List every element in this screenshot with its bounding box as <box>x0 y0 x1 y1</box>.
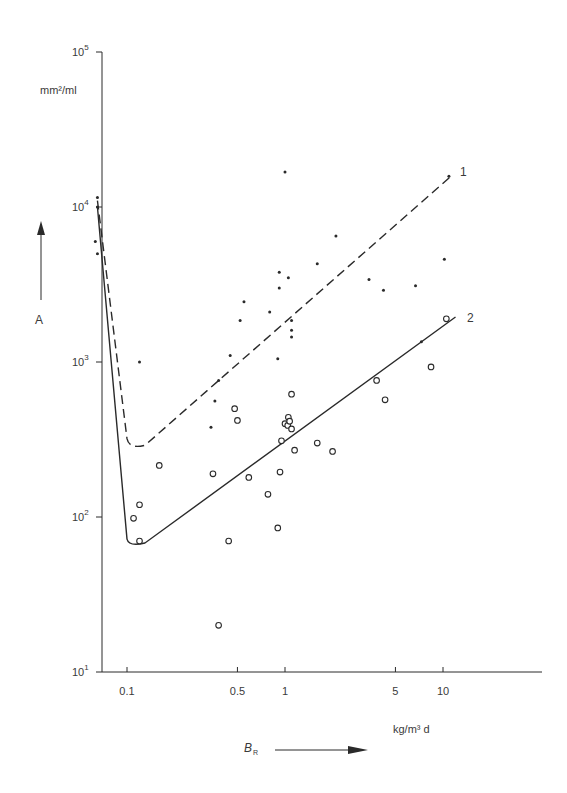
y-tick-label: 102 <box>72 508 89 523</box>
data-point-open <box>131 516 137 522</box>
data-point-open <box>382 397 388 403</box>
data-point-open <box>444 316 450 322</box>
data-point-filled <box>367 278 370 281</box>
data-point-filled <box>217 379 220 382</box>
data-point-open <box>232 406 238 412</box>
data-point-filled <box>239 319 242 322</box>
data-point-filled <box>96 196 99 199</box>
data-point-filled <box>278 287 281 290</box>
data-point-filled <box>278 271 281 274</box>
data-point-open <box>292 447 298 453</box>
x-tick-label: 0.5 <box>230 685 245 697</box>
x-axis-title: B R <box>244 741 258 756</box>
y-tick-label: 103 <box>72 353 89 368</box>
data-point-open <box>137 538 143 544</box>
x-tick-label: 10 <box>437 685 449 697</box>
data-point-open <box>137 502 143 508</box>
data-point-open <box>156 463 162 469</box>
data-points <box>94 171 451 629</box>
x-unit-label: kg/m³ d <box>393 723 430 735</box>
x-tick-label: 0.1 <box>119 685 134 697</box>
data-point-filled <box>414 284 417 287</box>
data-point-open <box>235 418 241 424</box>
fit-lines <box>97 177 455 544</box>
data-point-open <box>289 391 295 397</box>
data-point-filled <box>96 206 99 209</box>
data-point-filled <box>316 262 319 265</box>
data-point-open <box>246 475 252 481</box>
chart-plot: 101102103104105 0.10.51510 mm²/ml A kg/m… <box>0 0 567 793</box>
line-2-label: 2 <box>467 311 474 325</box>
y-unit-label: mm²/ml <box>40 84 77 96</box>
y-tick-label: 104 <box>72 198 89 213</box>
data-point-filled <box>268 311 271 314</box>
y-tick-label: 105 <box>72 43 89 58</box>
data-point-open <box>314 440 320 446</box>
data-point-open <box>428 364 434 370</box>
data-point-filled <box>209 426 212 429</box>
data-point-open <box>265 492 271 498</box>
data-point-filled <box>284 171 287 174</box>
data-point-open <box>287 418 293 424</box>
data-point-filled <box>287 276 290 279</box>
data-point-open <box>216 623 222 629</box>
data-point-open <box>289 426 295 432</box>
data-point-open <box>279 438 285 444</box>
data-point-filled <box>290 329 293 332</box>
data-point-filled <box>94 240 97 243</box>
x-axis-arrow <box>275 746 368 754</box>
data-point-filled <box>334 234 337 237</box>
data-point-open <box>330 449 336 455</box>
data-point-filled <box>229 354 232 357</box>
data-point-filled <box>96 252 99 255</box>
fit-line-1 <box>97 177 449 446</box>
arrow-up-head-icon <box>37 221 45 235</box>
data-point-filled <box>447 175 450 178</box>
y-axis-arrow <box>37 221 45 300</box>
data-point-filled <box>276 357 279 360</box>
line-1-label: 1 <box>460 165 467 179</box>
data-point-open <box>275 525 281 531</box>
x-axis-title-main: B <box>244 741 252 755</box>
y-axis-title: A <box>35 313 43 327</box>
data-point-filled <box>138 361 141 364</box>
x-tick-label: 1 <box>282 685 288 697</box>
data-point-filled <box>290 335 293 338</box>
x-tick-label: 5 <box>392 685 398 697</box>
data-point-filled <box>382 289 385 292</box>
y-tick-label: 101 <box>72 663 89 678</box>
data-point-open <box>226 538 232 544</box>
arrow-right-head-icon <box>348 746 368 754</box>
fit-line-2 <box>97 207 455 544</box>
data-point-open <box>374 378 380 384</box>
y-ticks: 101102103104105 <box>72 43 102 678</box>
axes <box>102 52 542 672</box>
data-point-filled <box>420 340 423 343</box>
data-point-filled <box>242 300 245 303</box>
x-axis-title-sub: R <box>253 749 258 756</box>
data-point-filled <box>443 258 446 261</box>
data-point-filled <box>213 400 216 403</box>
data-point-open <box>210 471 216 477</box>
data-point-open <box>277 469 283 475</box>
data-point-filled <box>290 319 293 322</box>
